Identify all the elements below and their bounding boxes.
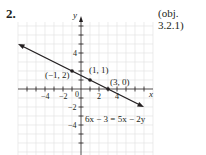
y-tick-label: −2 <box>68 103 77 112</box>
grid <box>18 22 153 155</box>
point-label: (1, 1) <box>89 65 109 75</box>
arrow-left-icon <box>18 44 25 49</box>
x-tick-label: −2 <box>59 92 68 101</box>
coordinate-graph: y x −4 −2 2 4 0 4 −2 −4 (−1, 2) (1, 1) (… <box>0 0 206 155</box>
point-label: (−1, 2) <box>45 70 70 80</box>
y-tick-label: 4 <box>73 49 77 58</box>
y-axis-arrow-icon <box>79 16 83 22</box>
x-tick-label: −4 <box>41 92 50 101</box>
y-axis-label: y <box>72 10 77 20</box>
point-marker <box>106 87 110 91</box>
y-tick-label: −4 <box>68 121 77 130</box>
arrow-right-icon <box>137 102 144 107</box>
point-label: (3, 0) <box>110 77 130 87</box>
x-axis-label: x <box>148 89 153 99</box>
point-marker <box>88 78 92 82</box>
origin-label: 0 <box>75 90 79 99</box>
x-tick-label: 2 <box>97 92 101 101</box>
point-marker <box>70 69 74 73</box>
axes <box>18 20 153 155</box>
equation-label: 6x − 3 = 5x − 2y <box>85 114 146 124</box>
